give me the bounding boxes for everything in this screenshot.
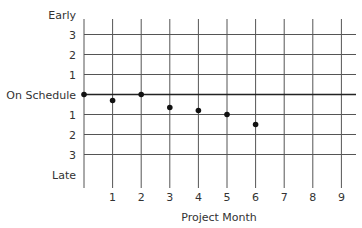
y-tick-label: 2 <box>69 49 76 62</box>
x-tick-label: 7 <box>281 191 288 204</box>
schedule-variance-chart: Early321On Schedule123Late 123456789 Pro… <box>0 0 362 228</box>
x-tick-label: 9 <box>338 191 345 204</box>
x-tick-label: 3 <box>166 191 173 204</box>
data-point <box>138 92 144 98</box>
y-tick-label: Late <box>52 169 76 182</box>
x-tick-label: 6 <box>252 191 259 204</box>
x-tick-label: 1 <box>109 191 116 204</box>
x-tick-label: 8 <box>309 191 316 204</box>
x-axis-tick-labels: 123456789 <box>109 191 345 204</box>
data-point <box>81 92 87 98</box>
data-point <box>110 98 116 104</box>
x-tick-label: 2 <box>138 191 145 204</box>
y-tick-label: On Schedule <box>6 89 76 102</box>
y-axis-labels: Early321On Schedule123Late <box>6 9 76 182</box>
vertical-gridlines <box>84 19 341 188</box>
data-point <box>196 108 202 114</box>
data-point <box>253 122 259 128</box>
y-tick-label: 1 <box>69 109 76 122</box>
y-tick-label: 3 <box>69 29 76 42</box>
x-axis-title: Project Month <box>181 211 257 224</box>
y-tick-label: Early <box>48 9 76 22</box>
y-tick-label: 3 <box>69 149 76 162</box>
y-tick-label: 2 <box>69 129 76 142</box>
x-tick-label: 4 <box>195 191 202 204</box>
x-tick-label: 5 <box>224 191 231 204</box>
data-point <box>167 105 173 111</box>
data-point <box>224 112 230 118</box>
y-tick-label: 1 <box>69 69 76 82</box>
